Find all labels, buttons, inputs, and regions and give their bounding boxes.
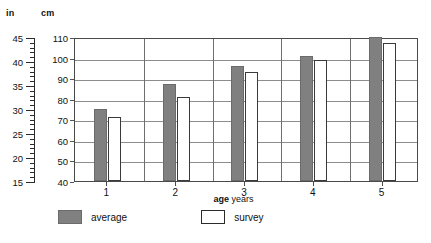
inches-minor-tick bbox=[30, 172, 35, 173]
left-axis-unit-label: in bbox=[6, 8, 14, 18]
bar-average-age-1 bbox=[94, 109, 107, 181]
bar-group bbox=[281, 39, 350, 181]
inches-minor-tick bbox=[30, 139, 35, 140]
legend-item-survey: survey bbox=[201, 210, 263, 224]
bar-average-age-5 bbox=[369, 37, 382, 181]
inches-minor-tick bbox=[30, 81, 35, 82]
inches-tick-label: 30 bbox=[12, 105, 23, 116]
inches-major-tick bbox=[26, 86, 35, 87]
legend-swatch-average bbox=[58, 210, 82, 224]
cm-tick-label: 40 bbox=[48, 177, 68, 188]
bar-group bbox=[144, 39, 213, 181]
legend-label-survey: survey bbox=[234, 212, 263, 223]
inches-minor-tick bbox=[30, 168, 35, 169]
bar-chart: in cm 15202530354045 405060708090100110 … bbox=[0, 0, 431, 243]
inches-minor-tick bbox=[30, 115, 35, 116]
bar-average-age-4 bbox=[300, 56, 313, 181]
bar-survey-age-2 bbox=[177, 97, 190, 181]
inches-minor-tick bbox=[30, 52, 35, 53]
legend-label-average: average bbox=[91, 212, 127, 223]
inches-minor-tick bbox=[30, 72, 35, 73]
inches-minor-tick bbox=[30, 91, 35, 92]
inches-minor-tick bbox=[30, 100, 35, 101]
x-axis-title-rest: years bbox=[232, 194, 254, 204]
x-axis-title: age years bbox=[0, 194, 431, 204]
cm-tick-label: 100 bbox=[48, 53, 68, 64]
inches-minor-tick bbox=[30, 43, 35, 44]
inches-minor-tick bbox=[30, 57, 35, 58]
x-tick-mark bbox=[175, 182, 176, 186]
bar-group bbox=[213, 39, 282, 181]
cm-tick-label: 110 bbox=[48, 33, 68, 44]
inches-minor-tick bbox=[30, 153, 35, 154]
inches-tick-label: 35 bbox=[12, 81, 23, 92]
inches-minor-tick bbox=[30, 129, 35, 130]
cm-tick-label: 80 bbox=[48, 94, 68, 105]
bar-survey-age-4 bbox=[314, 60, 327, 181]
cm-tick-label: 50 bbox=[48, 156, 68, 167]
bar-average-age-2 bbox=[163, 84, 176, 181]
legend: average survey bbox=[58, 210, 264, 224]
inches-major-tick bbox=[26, 182, 35, 183]
legend-swatch-survey bbox=[201, 210, 225, 224]
inches-minor-tick bbox=[30, 120, 35, 121]
inches-minor-tick bbox=[30, 177, 35, 178]
cm-tick-label: 70 bbox=[48, 115, 68, 126]
inches-tick-label: 20 bbox=[12, 153, 23, 164]
inner-axis-unit-label: cm bbox=[41, 8, 54, 18]
inches-tick-label: 40 bbox=[12, 57, 23, 68]
inches-major-tick bbox=[26, 110, 35, 111]
x-tick-mark bbox=[382, 182, 383, 186]
cm-tick-label: 60 bbox=[48, 135, 68, 146]
plot-area bbox=[74, 38, 418, 182]
inches-tick-label: 15 bbox=[12, 177, 23, 188]
inches-minor-tick bbox=[30, 76, 35, 77]
x-tick-mark bbox=[244, 182, 245, 186]
bar-survey-age-3 bbox=[245, 72, 258, 181]
inches-tick-label: 45 bbox=[12, 33, 23, 44]
inches-axis: 15202530354045 bbox=[26, 38, 35, 182]
bar-survey-age-1 bbox=[108, 117, 121, 181]
bar-average-age-3 bbox=[231, 66, 244, 181]
inches-minor-tick bbox=[30, 124, 35, 125]
bar-group bbox=[350, 39, 419, 181]
x-axis-title-bold: age bbox=[213, 194, 229, 204]
bar-group bbox=[75, 39, 144, 181]
inches-major-tick bbox=[26, 134, 35, 135]
inches-minor-tick bbox=[30, 96, 35, 97]
inches-minor-tick bbox=[30, 105, 35, 106]
x-tick-mark bbox=[313, 182, 314, 186]
inches-tick-label: 25 bbox=[12, 129, 23, 140]
inches-minor-tick bbox=[30, 148, 35, 149]
bar-survey-age-5 bbox=[383, 43, 396, 181]
inches-minor-tick bbox=[30, 144, 35, 145]
inches-major-tick bbox=[26, 62, 35, 63]
cm-tick-mark bbox=[70, 182, 74, 183]
inches-minor-tick bbox=[30, 48, 35, 49]
legend-item-average: average bbox=[58, 210, 127, 224]
cm-tick-label: 90 bbox=[48, 74, 68, 85]
x-tick-mark bbox=[106, 182, 107, 186]
inches-minor-tick bbox=[30, 163, 35, 164]
inches-minor-tick bbox=[30, 67, 35, 68]
inches-major-tick bbox=[26, 38, 35, 39]
inches-major-tick bbox=[26, 158, 35, 159]
